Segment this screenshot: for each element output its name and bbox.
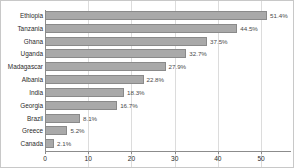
x-tick-mark: [131, 151, 132, 154]
bar-row[interactable]: 27.9%: [45, 61, 287, 74]
x-tick-label: 0: [43, 155, 47, 162]
bar-value-label: 18.3%: [127, 87, 145, 98]
category-axis-labels: EthiopiaTanzaniaGhanaUgandaMadagascarAlb…: [1, 10, 43, 151]
bar-chart: EthiopiaTanzaniaGhanaUgandaMadagascarAlb…: [0, 0, 294, 168]
bar-value-label: 16.7%: [120, 100, 138, 111]
bar-row[interactable]: 16.7%: [45, 100, 287, 113]
bar-row[interactable]: 37.5%: [45, 36, 287, 49]
bar[interactable]: [45, 114, 80, 123]
category-label: Tanzania: [1, 23, 43, 36]
x-tick-mark: [88, 151, 89, 154]
category-label: Albania: [1, 74, 43, 87]
bar-value-label: 32.7%: [189, 48, 207, 59]
x-tick-label: 20: [128, 155, 135, 162]
bar-row[interactable]: 2.1%: [45, 138, 287, 151]
bar[interactable]: [45, 126, 67, 135]
bar-value-label: 51.4%: [270, 10, 288, 21]
bar[interactable]: [45, 24, 237, 33]
bar-series: 51.4%44.5%37.5%32.7%27.9%22.8%18.3%16.7%…: [45, 10, 287, 151]
bar[interactable]: [45, 62, 166, 71]
category-label: Brazil: [1, 113, 43, 126]
bar-value-label: 5.2%: [70, 125, 84, 136]
category-label: Madagascar: [1, 61, 43, 74]
x-tick-label: 30: [171, 155, 178, 162]
bar-value-label: 8.1%: [83, 113, 97, 124]
category-label: Ghana: [1, 36, 43, 49]
bar-row[interactable]: 44.5%: [45, 23, 287, 36]
x-tick-mark: [175, 151, 176, 154]
bar[interactable]: [45, 101, 117, 110]
bar-value-label: 44.5%: [240, 23, 258, 34]
category-label: Georgia: [1, 100, 43, 113]
bar-row[interactable]: 22.8%: [45, 74, 287, 87]
bar-row[interactable]: 51.4%: [45, 10, 287, 23]
bar-row[interactable]: 32.7%: [45, 48, 287, 61]
bar-value-label: 2.1%: [57, 138, 71, 149]
category-label: Uganda: [1, 48, 43, 61]
category-label: India: [1, 87, 43, 100]
category-label: Greece: [1, 125, 43, 138]
category-label: Canada: [1, 138, 43, 151]
bar[interactable]: [45, 139, 54, 148]
bar-value-label: 22.8%: [147, 74, 165, 85]
bar[interactable]: [45, 11, 267, 20]
x-tick-label: 40: [214, 155, 221, 162]
bar-value-label: 27.9%: [169, 61, 187, 72]
bar[interactable]: [45, 88, 124, 97]
bar[interactable]: [45, 49, 186, 58]
x-axis-ticks: 01020304050: [45, 151, 287, 168]
category-label: Ethiopia: [1, 10, 43, 23]
plot-area: 51.4%44.5%37.5%32.7%27.9%22.8%18.3%16.7%…: [45, 10, 287, 151]
x-tick-mark: [45, 151, 46, 154]
bar[interactable]: [45, 37, 207, 46]
x-tick-label: 50: [257, 155, 264, 162]
bar-value-label: 37.5%: [210, 36, 228, 47]
x-tick-label: 10: [85, 155, 92, 162]
x-tick-mark: [261, 151, 262, 154]
bar[interactable]: [45, 75, 144, 84]
bar-row[interactable]: 5.2%: [45, 125, 287, 138]
x-tick-mark: [218, 151, 219, 154]
bar-row[interactable]: 8.1%: [45, 113, 287, 126]
bar-row[interactable]: 18.3%: [45, 87, 287, 100]
